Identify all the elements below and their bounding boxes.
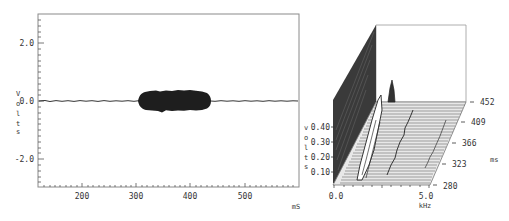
- waterfall-y-tick-label: 0.20: [311, 153, 330, 162]
- waveform-x-tick-label: 200: [75, 192, 90, 201]
- waveform-y-tick-label: -2.0: [15, 155, 34, 164]
- waterfall-x-ticks: [334, 185, 429, 188]
- waterfall-z-tick-label: 409: [471, 118, 486, 127]
- waveform-x-tick-label: 300: [129, 192, 144, 201]
- waveform-x-tick-label: 400: [183, 192, 198, 201]
- svg-text:o: o: [16, 100, 20, 108]
- svg-text:v: v: [304, 124, 308, 132]
- waterfall-z-tick-label: 366: [462, 139, 477, 148]
- waterfall-z-tick-label: 452: [480, 98, 495, 107]
- waveform-x-unit: mS: [292, 203, 300, 211]
- waterfall-x-tick-label: 0.0: [329, 192, 344, 201]
- waveform-x-tick-label: 500: [238, 192, 253, 201]
- waterfall-y-tick-label: 0.40: [311, 123, 330, 132]
- svg-text:l: l: [304, 144, 308, 152]
- waterfall-y-tick-label: 0.30: [311, 138, 330, 147]
- waterfall-x-unit: kHz: [419, 202, 432, 210]
- waterfall-z-unit: ms: [490, 156, 498, 164]
- waterfall-y-axis-label: v o l t s: [304, 124, 308, 171]
- svg-text:l: l: [16, 110, 20, 118]
- svg-text:s: s: [304, 163, 308, 171]
- waveform-y-tick-label: 2.0: [20, 39, 35, 48]
- waveform-y-tick-label: 0.0: [20, 97, 35, 106]
- waveform-burst: [138, 90, 211, 113]
- svg-text:s: s: [16, 128, 20, 136]
- waterfall-plot: 0.40 0.30 0.20 0.10 v o l t s 0.0 5.0 kH…: [304, 25, 499, 210]
- figure: 2.0 0.0 -2.0 200 300 400 500 mS V o l t …: [0, 0, 509, 221]
- waterfall-x-tick-label: 5.0: [419, 192, 434, 201]
- waterfall-y-tick-label: 0.10: [311, 168, 330, 177]
- waveform-plot: 2.0 0.0 -2.0 200 300 400 500 mS V o l t …: [15, 14, 300, 211]
- svg-text:o: o: [304, 134, 308, 142]
- svg-text:t: t: [16, 120, 20, 128]
- svg-text:t: t: [304, 154, 308, 162]
- waveform-x-ticks: [44, 183, 293, 187]
- waterfall-z-tick-label: 323: [452, 160, 467, 169]
- waterfall-z-tick-label: 280: [443, 182, 458, 191]
